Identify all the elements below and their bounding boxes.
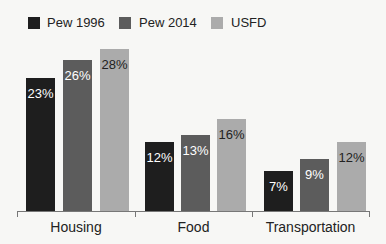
bar-food-usfd: 16% bbox=[217, 119, 246, 211]
bar-value-label: 12% bbox=[145, 150, 174, 165]
bar-transportation-pew-1996: 7% bbox=[264, 171, 293, 211]
legend-label-pew-1996: Pew 1996 bbox=[47, 16, 105, 30]
bar-housing-pew-1996: 23% bbox=[26, 78, 55, 211]
x-tick-label-food: Food bbox=[135, 219, 252, 235]
bar-value-label: 26% bbox=[63, 68, 92, 83]
x-axis-line bbox=[17, 211, 370, 212]
legend-label-pew-2014: Pew 2014 bbox=[139, 16, 197, 30]
legend-label-usfd: USFD bbox=[231, 16, 266, 30]
bar-value-label: 28% bbox=[100, 57, 129, 72]
legend-swatch-pew-2014 bbox=[119, 17, 131, 29]
legend-swatch-pew-1996 bbox=[28, 17, 40, 29]
bar-value-label: 7% bbox=[264, 179, 293, 194]
bar-transportation-pew-2014: 9% bbox=[300, 159, 329, 211]
bar-value-label: 23% bbox=[26, 86, 55, 101]
bar-value-label: 16% bbox=[217, 127, 246, 142]
x-tick-label-housing: Housing bbox=[17, 219, 135, 235]
bar-transportation-usfd: 12% bbox=[337, 142, 366, 211]
bar-value-label: 13% bbox=[181, 143, 210, 158]
bar-value-label: 9% bbox=[300, 167, 329, 182]
legend-swatch-usfd bbox=[211, 17, 223, 29]
bar-housing-usfd: 28% bbox=[100, 49, 129, 211]
x-axis-tick bbox=[135, 211, 136, 217]
bar-food-pew-2014: 13% bbox=[181, 135, 210, 211]
x-tick-label-transportation: Transportation bbox=[252, 219, 369, 235]
x-axis-tick bbox=[369, 211, 370, 217]
bar-food-pew-1996: 12% bbox=[145, 142, 174, 211]
x-axis-tick bbox=[252, 211, 253, 217]
x-axis-tick bbox=[17, 211, 18, 217]
bar-value-label: 12% bbox=[337, 150, 366, 165]
bar-housing-pew-2014: 26% bbox=[63, 60, 92, 211]
